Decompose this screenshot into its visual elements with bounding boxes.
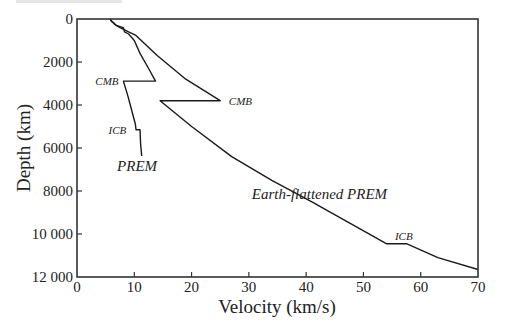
series-layer (110, 19, 478, 270)
annotation-cmb: CMB (229, 95, 253, 107)
y-tick-label: 0 (66, 11, 74, 27)
annotation-earth-flattened-prem: Earth-flattened PREM (251, 186, 389, 202)
annotation-icb: ICB (108, 124, 127, 136)
x-tick-label: 40 (299, 279, 314, 295)
plot-frame (77, 19, 478, 277)
earth-flattened-prem-curve (110, 19, 478, 270)
annotations: CMBICBPREMCMBEarth-flattened PREMICB (95, 75, 413, 242)
x-tick-label: 60 (413, 279, 428, 295)
y-tick-label: 8000 (43, 183, 73, 199)
annotation-cmb: CMB (95, 75, 119, 87)
x-tick-label: 0 (73, 279, 81, 295)
y-axis-title: Depth (km) (13, 104, 35, 192)
y-tick-label: 12 000 (32, 269, 73, 285)
y-tick-label: 6000 (43, 140, 73, 156)
velocity-depth-chart: 010203040506070 0200040006000800010 0001… (0, 0, 505, 323)
x-tick-label: 50 (356, 279, 371, 295)
y-tick-label: 10 000 (32, 226, 73, 242)
annotation-prem: PREM (116, 158, 158, 174)
y-tick-label: 4000 (43, 97, 73, 113)
x-tick-label: 20 (184, 279, 199, 295)
y-tick-label: 2000 (43, 54, 73, 70)
y-axis: 0200040006000800010 00012 000 (32, 11, 82, 285)
x-axis: 010203040506070 (73, 272, 485, 295)
x-tick-label: 10 (127, 279, 142, 295)
x-axis-title: Velocity (km/s) (218, 296, 336, 318)
annotation-icb: ICB (394, 230, 413, 242)
x-tick-label: 70 (471, 279, 486, 295)
x-tick-label: 30 (241, 279, 256, 295)
